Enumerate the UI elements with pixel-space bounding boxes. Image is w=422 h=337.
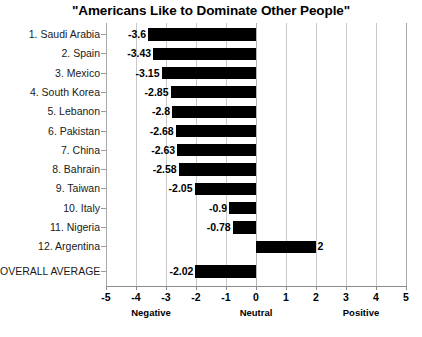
bar-value-label: -0.78 bbox=[171, 218, 231, 237]
category-label: 5. Lebanon bbox=[0, 102, 100, 121]
bar-row: 10. Italy-0.9 bbox=[0, 199, 422, 218]
x-tick-label-0: 0 bbox=[241, 291, 271, 303]
category-tick bbox=[101, 150, 106, 151]
bar-row: OVERALL AVERAGE-2.02 bbox=[0, 262, 422, 281]
bar bbox=[179, 163, 256, 175]
bar-value-label: -3.43 bbox=[91, 44, 151, 63]
bar-row: 1. Saudi Arabia-3.6 bbox=[0, 25, 422, 44]
x-axis-tick--4 bbox=[136, 286, 137, 290]
zone-label-positive: Positive bbox=[316, 307, 406, 318]
category-label: 2. Spain bbox=[0, 44, 100, 63]
category-label: 12. Argentina bbox=[0, 237, 100, 256]
bar bbox=[195, 183, 257, 195]
category-tick bbox=[101, 227, 106, 228]
bar-row: 12. Argentina2 bbox=[0, 237, 422, 256]
bar-value-label: 2 bbox=[318, 237, 378, 256]
x-axis-tick-1 bbox=[286, 286, 287, 290]
x-tick-label-1: 1 bbox=[271, 291, 301, 303]
bar bbox=[171, 86, 257, 98]
zone-label-neutral: Neutral bbox=[211, 307, 301, 318]
bar-row: 7. China-2.63 bbox=[0, 141, 422, 160]
bar-value-label: -0.9 bbox=[167, 199, 227, 218]
bar-chart: "Americans Like to Dominate Other People… bbox=[0, 0, 422, 337]
bar-value-label: -2.68 bbox=[114, 122, 174, 141]
bar bbox=[177, 144, 256, 156]
bar-value-label: -2.05 bbox=[133, 179, 193, 198]
x-tick-label-2: 2 bbox=[301, 291, 331, 303]
bar-row: 2. Spain-3.43 bbox=[0, 44, 422, 63]
category-label: 4. South Korea bbox=[0, 83, 100, 102]
bar-value-label: -3.6 bbox=[86, 25, 146, 44]
bar-row: 4. South Korea-2.85 bbox=[0, 83, 422, 102]
bar bbox=[233, 221, 256, 233]
bar-row: 6. Pakistan-2.68 bbox=[0, 122, 422, 141]
category-tick bbox=[101, 131, 106, 132]
bar-row: 11. Nigeria-0.78 bbox=[0, 218, 422, 237]
x-axis-tick-5 bbox=[406, 286, 407, 290]
category-tick bbox=[101, 271, 106, 272]
bar-value-label: -2.85 bbox=[109, 83, 169, 102]
x-tick-label--2: -2 bbox=[181, 291, 211, 303]
x-axis-tick--1 bbox=[226, 286, 227, 290]
bar bbox=[148, 28, 256, 40]
x-tick-label--3: -3 bbox=[151, 291, 181, 303]
bar-row: 5. Lebanon-2.8 bbox=[0, 102, 422, 121]
category-tick bbox=[101, 188, 106, 189]
bar bbox=[153, 48, 256, 60]
category-tick bbox=[101, 246, 106, 247]
bar-value-label: -2.63 bbox=[115, 141, 175, 160]
category-tick bbox=[101, 208, 106, 209]
x-tick-label-5: 5 bbox=[391, 291, 421, 303]
x-axis-tick-0 bbox=[256, 286, 257, 290]
bar-value-label: -2.02 bbox=[133, 262, 193, 281]
category-label: 11. Nigeria bbox=[0, 218, 100, 237]
category-label: OVERALL AVERAGE bbox=[0, 262, 100, 281]
x-axis-tick--5 bbox=[106, 286, 107, 290]
category-label: 1. Saudi Arabia bbox=[0, 25, 100, 44]
x-axis-tick--2 bbox=[196, 286, 197, 290]
x-tick-label--4: -4 bbox=[121, 291, 151, 303]
category-label: 3. Mexico bbox=[0, 64, 100, 83]
x-tick-label--5: -5 bbox=[91, 291, 121, 303]
x-tick-label-3: 3 bbox=[331, 291, 361, 303]
bar bbox=[172, 106, 256, 118]
category-label: 7. China bbox=[0, 141, 100, 160]
x-axis-tick-2 bbox=[316, 286, 317, 290]
category-label: 6. Pakistan bbox=[0, 122, 100, 141]
category-label: 10. Italy bbox=[0, 199, 100, 218]
bar-row: 9. Taiwan-2.05 bbox=[0, 179, 422, 198]
bar bbox=[195, 265, 256, 277]
category-tick bbox=[101, 169, 106, 170]
x-axis-tick-3 bbox=[346, 286, 347, 290]
zone-label-negative: Negative bbox=[106, 307, 196, 318]
x-axis-tick--3 bbox=[166, 286, 167, 290]
chart-title: "Americans Like to Dominate Other People… bbox=[0, 3, 422, 18]
category-tick bbox=[101, 92, 106, 93]
category-label: 9. Taiwan bbox=[0, 179, 100, 198]
x-axis-tick-4 bbox=[376, 286, 377, 290]
bar bbox=[229, 202, 256, 214]
bar-value-label: -2.8 bbox=[110, 102, 170, 121]
x-tick-label-4: 4 bbox=[361, 291, 391, 303]
category-label: 8. Bahrain bbox=[0, 160, 100, 179]
bar bbox=[256, 241, 316, 253]
bar-value-label: -2.58 bbox=[117, 160, 177, 179]
bar bbox=[176, 125, 256, 137]
bar-row: 3. Mexico-3.15 bbox=[0, 64, 422, 83]
bar-value-label: -3.15 bbox=[100, 64, 160, 83]
category-tick bbox=[101, 111, 106, 112]
bar-row: 8. Bahrain-2.58 bbox=[0, 160, 422, 179]
x-tick-label--1: -1 bbox=[211, 291, 241, 303]
bar bbox=[162, 67, 257, 79]
